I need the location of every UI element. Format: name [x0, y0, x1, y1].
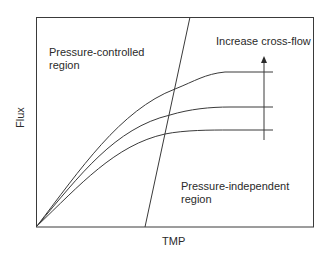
flux-tmp-diagram: Increase cross-flow Pressure-controlled …: [0, 0, 334, 257]
annotation-increase-cross-flow: Increase cross-flow: [216, 35, 311, 47]
flux-curve-medium: [37, 107, 273, 226]
region-label-pressure-independent-line2: region: [181, 193, 212, 205]
region-label-pressure-controlled-line1: Pressure-controlled: [49, 46, 144, 58]
flux-curve-high: [37, 72, 273, 226]
region-label-pressure-independent-line1: Pressure-independent: [181, 180, 289, 192]
x-axis-label: TMP: [162, 235, 185, 247]
arrow-up-icon: [261, 56, 267, 63]
y-axis-label: Flux: [14, 107, 26, 128]
region-label-pressure-controlled-line2: region: [49, 59, 80, 71]
